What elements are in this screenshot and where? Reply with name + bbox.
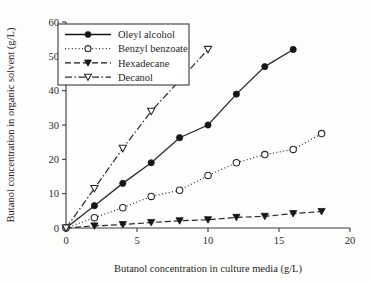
- marker-open-circle: [148, 193, 154, 199]
- legend-label-2: Hexadecane: [118, 58, 170, 69]
- marker-open-circle: [205, 172, 211, 178]
- y-tick-label-10: 10: [49, 188, 60, 199]
- marker-open-circle: [262, 151, 268, 157]
- y-tick-label-0: 0: [54, 223, 59, 234]
- marker-filled-circle: [290, 46, 296, 52]
- marker-open-triangle: [204, 46, 211, 52]
- y-tick-label-20: 20: [49, 154, 60, 165]
- marker-filled-circle: [120, 180, 126, 186]
- marker-open-triangle: [119, 145, 126, 151]
- marker-filled-circle: [148, 160, 154, 166]
- x-tick-label-5: 5: [134, 235, 139, 246]
- marker-open-circle: [233, 160, 239, 166]
- marker-open-circle: [176, 187, 182, 193]
- x-tick-label-20: 20: [345, 235, 356, 246]
- marker-open-circle: [318, 130, 324, 136]
- marker-filled-circle: [85, 32, 91, 38]
- marker-open-circle: [91, 215, 97, 221]
- marker-filled-circle: [177, 135, 183, 141]
- marker-open-circle: [85, 46, 91, 52]
- y-tick-label-30: 30: [49, 120, 60, 131]
- y-tick-label-40: 40: [49, 85, 60, 96]
- series-line-1: [66, 134, 322, 228]
- x-tick-label-0: 0: [63, 235, 68, 246]
- x-tick-label-10: 10: [203, 235, 214, 246]
- legend-label-0: Oleyl alcohol: [118, 29, 175, 40]
- y-tick-label-60: 60: [49, 17, 60, 28]
- x-axis-title: Butanol concentration in culture media (…: [114, 263, 303, 275]
- marker-open-circle: [120, 205, 126, 211]
- marker-filled-circle: [233, 91, 239, 97]
- marker-filled-circle: [262, 64, 268, 70]
- chart-figure: 010203040506005101520Butanol concentrati…: [0, 0, 371, 283]
- legend-label-3: Decanol: [118, 72, 153, 83]
- legend: Oleyl alcoholBenzyl benzoateHexadecaneDe…: [58, 24, 189, 85]
- y-tick-label-50: 50: [49, 51, 60, 62]
- line-chart: 010203040506005101520Butanol concentrati…: [0, 0, 371, 283]
- marker-filled-circle: [205, 122, 211, 128]
- marker-open-triangle: [91, 185, 98, 191]
- legend-label-1: Benzyl benzoate: [118, 43, 188, 54]
- series-benzyl-benzoate: [63, 130, 325, 231]
- y-axis-title: Butanol concentration in organic solvent…: [5, 27, 17, 222]
- marker-filled-circle: [91, 203, 97, 209]
- marker-open-circle: [290, 146, 296, 152]
- x-tick-label-15: 15: [274, 235, 285, 246]
